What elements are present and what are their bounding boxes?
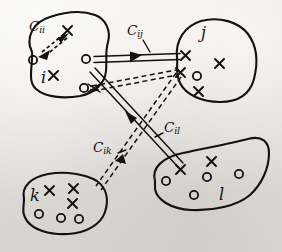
marker-x	[194, 87, 203, 96]
marker-o	[80, 84, 88, 92]
cost-label-c-il: Cil	[164, 121, 180, 136]
cost-label-c-ii: Cii	[29, 20, 45, 35]
marker-x	[215, 59, 224, 68]
marker-o	[35, 210, 43, 218]
marker-o	[235, 170, 243, 178]
cost-label-c-ij: Cij	[127, 24, 143, 39]
label-leaders	[118, 40, 163, 153]
marker-x	[207, 157, 216, 166]
arrowhead-c-ii-start	[38, 50, 50, 60]
marker-o	[190, 191, 198, 199]
cost-label-c-ik: Cik	[93, 141, 112, 156]
arrowhead-c-il	[125, 111, 137, 124]
marker-x	[45, 186, 54, 195]
marker-x	[69, 184, 78, 193]
marker-o	[203, 173, 211, 181]
marker-x	[181, 51, 190, 60]
marker-x	[68, 199, 77, 208]
marker-o	[162, 177, 170, 185]
marker-o	[193, 72, 201, 80]
marker-o	[82, 55, 90, 63]
marker-x	[49, 71, 58, 80]
cluster-outline-l	[154, 138, 269, 210]
arrowhead-c-ik	[115, 154, 126, 164]
marker-o	[75, 215, 83, 223]
cluster-label-k: k	[30, 188, 40, 204]
markers-cluster-k	[35, 184, 83, 223]
figure-root: Cii Cij Cil Cik i j k l	[0, 0, 282, 252]
cluster-label-i: i	[41, 70, 46, 86]
cluster-label-l: l	[219, 187, 224, 203]
cluster-label-j: j	[201, 25, 206, 41]
marker-x	[176, 165, 185, 174]
marker-o	[57, 214, 65, 222]
leader-c-ij	[143, 40, 150, 52]
markers-cluster-i	[29, 26, 90, 92]
link-c-ii	[38, 33, 69, 60]
